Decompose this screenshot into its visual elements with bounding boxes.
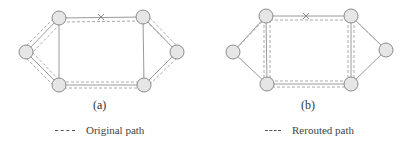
- caption-b: (b): [301, 98, 315, 113]
- node-top-right: [344, 9, 358, 23]
- node-top-right: [136, 10, 150, 24]
- node-top-left: [52, 11, 66, 25]
- legend-rerouted-path: Rerouted path: [265, 124, 354, 136]
- caption-a: (a): [93, 98, 106, 113]
- dashed-line-icon: [265, 130, 281, 131]
- node-left: [19, 45, 33, 59]
- node-left: [226, 45, 240, 59]
- node-bottom-right: [344, 77, 358, 91]
- panel-a-network: [19, 10, 184, 92]
- node-bottom-right: [137, 78, 151, 92]
- network-diagram: [0, 0, 411, 110]
- dashed-line-icon: [55, 130, 75, 131]
- node-bottom-left: [52, 78, 66, 92]
- legend-label: Rerouted path: [292, 124, 354, 136]
- node-top-left: [259, 9, 273, 23]
- panel-b-network: [226, 9, 393, 91]
- node-right: [379, 43, 393, 57]
- legend-label: Original path: [86, 124, 144, 136]
- legend-original-path: Original path: [55, 124, 144, 136]
- node-right: [170, 45, 184, 59]
- node-bottom-left: [260, 77, 274, 91]
